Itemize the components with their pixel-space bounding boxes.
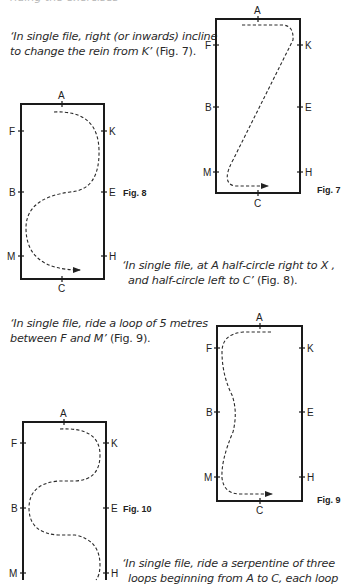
route-path [222, 332, 272, 494]
figure-7-arena: A C F K B E M H Fig. 7 [203, 5, 341, 209]
figure-label: Fig. 10 [123, 504, 152, 514]
marker-a: A [256, 312, 263, 323]
route-path [26, 112, 99, 270]
marker-k: K [307, 343, 314, 354]
marker-f: F [205, 40, 211, 51]
figure-label: Fig. 8 [123, 188, 147, 198]
marker-b: B [11, 503, 18, 514]
marker-e: E [111, 503, 118, 514]
marker-k: K [109, 126, 116, 137]
marker-a: A [60, 408, 67, 419]
figure-10-arena: A F K B E M H Fig. 10 [9, 408, 152, 580]
marker-a: A [58, 90, 65, 101]
marker-k: K [305, 40, 312, 51]
figure-label: Fig. 9 [317, 495, 341, 505]
figure-label: Fig. 7 [317, 185, 341, 195]
figure-8-arena: A C F K B E M H Fig. 8 [7, 90, 147, 294]
marker-h: H [109, 251, 116, 262]
marker-h: H [305, 167, 312, 178]
marker-k: K [111, 438, 118, 449]
marker-e: E [307, 407, 314, 418]
marker-b: B [9, 187, 16, 198]
marker-h: H [307, 472, 314, 483]
route-path [29, 429, 100, 580]
marker-b: B [206, 407, 213, 418]
marker-a: A [254, 5, 261, 16]
marker-c: C [256, 505, 263, 516]
marker-c: C [58, 283, 65, 294]
marker-f: F [206, 343, 212, 354]
route-path [227, 25, 293, 186]
marker-e: E [109, 187, 116, 198]
marker-h: H [111, 568, 118, 579]
marker-m: M [204, 472, 212, 483]
marker-c: C [254, 198, 261, 209]
figure-9-arena: A C F K B E M H Fig. 9 [204, 312, 341, 516]
marker-m: M [7, 251, 15, 262]
marker-m: M [203, 167, 211, 178]
marker-f: F [11, 438, 17, 449]
marker-m: M [9, 568, 17, 579]
marker-e: E [305, 102, 312, 113]
marker-b: B [205, 102, 212, 113]
marker-f: F [9, 126, 15, 137]
